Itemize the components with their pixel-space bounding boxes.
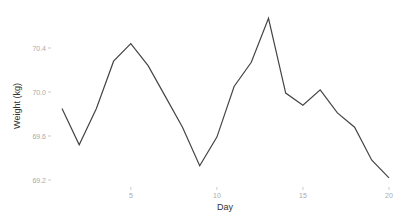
y-tick-label: 70.4	[32, 45, 46, 52]
y-tick-label: 70.0	[32, 89, 46, 96]
x-axis-title: Day	[217, 202, 234, 212]
x-axis: 5101520	[129, 187, 393, 199]
weight-series-line	[62, 18, 389, 178]
weight-line-chart: 69.269.670.070.4 5101520 Day Weight (kg)	[0, 0, 416, 217]
y-tick-label: 69.6	[32, 133, 46, 140]
y-axis-title: Weight (kg)	[12, 83, 22, 129]
x-tick-label: 20	[385, 192, 393, 199]
y-axis: 69.269.670.070.4	[32, 45, 51, 184]
x-tick-label: 10	[213, 192, 221, 199]
x-tick-label: 15	[299, 192, 307, 199]
y-tick-label: 69.2	[32, 177, 46, 184]
x-tick-label: 5	[129, 192, 133, 199]
